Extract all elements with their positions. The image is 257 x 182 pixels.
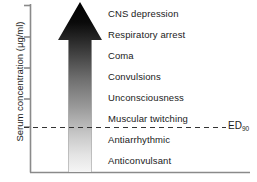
concentration-effect-figure: Serum concentration (μg/ml) CNS depressi… xyxy=(0,0,257,182)
effect-label-respiratory-arrest: Respiratory arrest xyxy=(108,29,185,40)
effect-label-cns-depression: CNS depression xyxy=(108,8,179,19)
concentration-arrow xyxy=(58,2,102,172)
effect-label-coma: Coma xyxy=(108,50,134,61)
y-axis-label: Serum concentration (μg/ml) xyxy=(14,7,25,157)
effect-label-unconsciousness: Unconsciousness xyxy=(108,92,184,103)
ed90-base: ED xyxy=(228,120,242,131)
effect-label-anticonvulsant: Anticonvulsant xyxy=(108,155,171,166)
ed90-annotation: ED90 xyxy=(228,120,249,132)
effect-label-convulsions: Convulsions xyxy=(108,71,161,82)
effect-label-antiarrhythmic: Antiarrhythmic xyxy=(108,134,170,145)
effect-label-muscular-twitching: Muscular twitching xyxy=(108,113,188,124)
ed90-subscript: 90 xyxy=(242,125,249,132)
